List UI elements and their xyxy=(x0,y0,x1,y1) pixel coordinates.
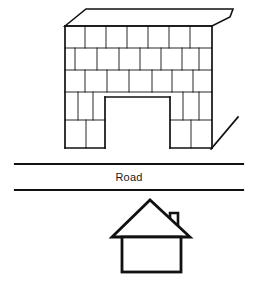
road-label: Road xyxy=(115,171,142,183)
roof-slab-shape xyxy=(65,9,233,26)
house-body xyxy=(122,237,181,272)
road-cross-section-diagram: Road xyxy=(0,0,258,286)
diagram-canvas: Road xyxy=(0,0,258,286)
wall-roof-slab xyxy=(65,9,233,26)
